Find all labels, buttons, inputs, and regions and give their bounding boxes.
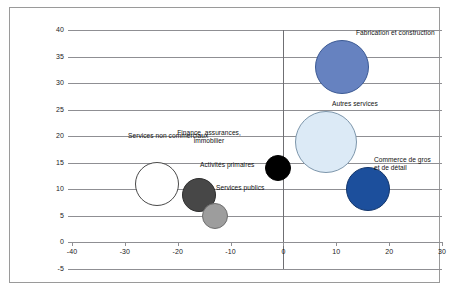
bubble-4[interactable] [135,162,179,206]
bubble-2[interactable] [346,167,390,211]
gridline-y-0 [72,242,442,243]
bubble-1[interactable] [295,111,357,173]
x-axis-tick-label: -10 [211,248,251,256]
bubble-6[interactable] [202,203,228,229]
y-axis-tick-label: 25 [38,106,64,114]
y-tick-mark-40 [68,30,72,31]
y-tick-mark-25 [68,110,72,111]
gridline-y-35 [72,57,442,58]
x-axis-tick-label: 0 [263,248,303,256]
y-tick-mark--5 [68,269,72,270]
x-tick-mark-10 [336,242,337,246]
y-axis-tick-label: 35 [38,53,64,61]
y-tick-mark-5 [68,216,72,217]
y-tick-mark-30 [68,83,72,84]
x-axis-tick-label: 20 [369,248,409,256]
x-axis-tick-label: 10 [316,248,356,256]
bubble-chart-figure: 4035302520151050-5-40-30-20-100102030 Fa… [0,0,449,290]
gridline-y-30 [72,83,442,84]
x-tick-mark--10 [231,242,232,246]
bubble-3[interactable] [265,155,291,181]
x-tick-mark-30 [442,242,443,246]
y-axis-tick-label: 20 [38,132,64,140]
y-axis-tick-label: 10 [38,185,64,193]
bubble-label-5: Activités primaires [200,161,254,169]
y-axis-tick-label: -5 [38,265,64,273]
bubble-label-0: Fabrication et construction [356,29,435,37]
x-tick-mark-0 [283,242,284,246]
bubble-label-6: Services publics [216,184,264,192]
gridline-y-5 [72,216,442,217]
gridline-y--5 [72,269,442,270]
y-axis-tick-label: 5 [38,212,64,220]
y-axis-tick-label: 40 [38,26,64,34]
y-tick-mark-20 [68,136,72,137]
figure-frame: 4035302520151050-5-40-30-20-100102030 [9,7,440,283]
x-axis-tick-label: -20 [158,248,198,256]
x-axis-tick-label: -40 [52,248,92,256]
gridline-y-25 [72,110,442,111]
x-axis-tick-label: -30 [105,248,145,256]
x-tick-mark-20 [389,242,390,246]
y-axis-tick-label: 0 [38,238,64,246]
y-tick-mark-10 [68,189,72,190]
bubble-label-1: Autres services [332,100,378,108]
x-tick-mark--20 [178,242,179,246]
y-axis-tick-label: 30 [38,79,64,87]
x-tick-mark--40 [72,242,73,246]
y-tick-mark-35 [68,57,72,58]
y-tick-mark-15 [68,163,72,164]
x-axis-tick-label: 30 [422,248,449,256]
y-axis-tick-label: 15 [38,159,64,167]
zero-axis-line [283,30,284,269]
bubble-0[interactable] [315,40,369,94]
bubble-label-2: Commerce de gros et de détail [374,156,431,172]
bubble-label-4: Services non commerciaux [128,132,208,140]
x-tick-mark--30 [125,242,126,246]
plot-area [72,30,442,269]
